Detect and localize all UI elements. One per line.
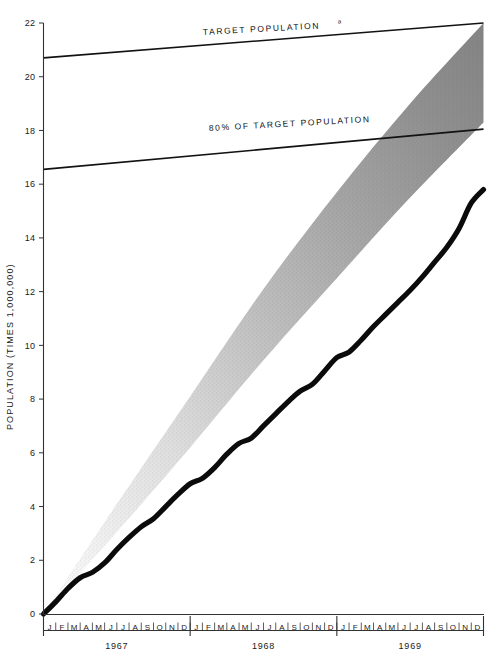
target-population-label: TARGET POPULATION bbox=[203, 20, 321, 37]
y-tick-label-22: 22 bbox=[25, 18, 36, 28]
month-label-N: N bbox=[316, 623, 322, 632]
y-axis-ticks bbox=[39, 23, 44, 614]
eighty-percent-label: 80% OF TARGET POPULATION bbox=[209, 114, 371, 133]
year-label-1969: 1969 bbox=[399, 641, 422, 651]
chart-canvas: 0246810121416182022 JFMAMJJASONDJFMAMJJA… bbox=[0, 0, 498, 658]
actual-population-curve bbox=[44, 190, 484, 614]
month-label-D: D bbox=[181, 623, 187, 632]
month-label-J: J bbox=[194, 623, 198, 632]
year-label-1967: 1967 bbox=[105, 641, 128, 651]
month-label-F: F bbox=[59, 623, 64, 632]
y-axis-tick-labels: 0246810121416182022 bbox=[25, 18, 36, 619]
month-label-A: A bbox=[84, 623, 90, 632]
month-label-M: M bbox=[71, 623, 78, 632]
month-label-A: A bbox=[132, 623, 138, 632]
month-label-J: J bbox=[268, 623, 272, 632]
month-label-A: A bbox=[377, 623, 383, 632]
y-tick-label-0: 0 bbox=[30, 609, 35, 619]
y-tick-label-8: 8 bbox=[30, 394, 35, 404]
month-label-N: N bbox=[169, 623, 175, 632]
month-label-A: A bbox=[230, 623, 236, 632]
y-tick-label-6: 6 bbox=[30, 448, 35, 458]
year-label-1968: 1968 bbox=[252, 641, 275, 651]
month-label-M: M bbox=[95, 623, 102, 632]
month-label-J: J bbox=[414, 623, 418, 632]
y-tick-label-18: 18 bbox=[25, 126, 36, 136]
y-tick-label-10: 10 bbox=[25, 341, 36, 351]
month-label-A: A bbox=[279, 623, 285, 632]
year-labels: 196719681969 bbox=[105, 641, 422, 651]
y-tick-label-20: 20 bbox=[25, 72, 36, 82]
month-label-M: M bbox=[242, 623, 249, 632]
month-label-J: J bbox=[255, 623, 259, 632]
month-label-J: J bbox=[341, 623, 345, 632]
month-label-D: D bbox=[474, 623, 480, 632]
month-label-S: S bbox=[291, 623, 296, 632]
annotation-target-population: TARGET POPULATION a bbox=[203, 18, 342, 37]
y-tick-label-2: 2 bbox=[30, 555, 35, 565]
month-label-M: M bbox=[217, 623, 224, 632]
month-label-J: J bbox=[121, 623, 125, 632]
month-label-O: O bbox=[303, 623, 309, 632]
month-label-J: J bbox=[109, 623, 113, 632]
month-label-M: M bbox=[388, 623, 395, 632]
month-label-O: O bbox=[450, 623, 456, 632]
month-label-D: D bbox=[328, 623, 334, 632]
y-tick-label-12: 12 bbox=[25, 287, 36, 297]
month-label-F: F bbox=[353, 623, 358, 632]
month-label-O: O bbox=[156, 623, 162, 632]
month-label-S: S bbox=[145, 623, 150, 632]
y-tick-label-16: 16 bbox=[25, 179, 36, 189]
y-axis-title: POPULATION (TIMES 1,000,000) bbox=[5, 263, 15, 430]
population-growth-chart: 0246810121416182022 JFMAMJJASONDJFMAMJJA… bbox=[0, 0, 498, 658]
month-label-F: F bbox=[206, 623, 211, 632]
y-tick-label-14: 14 bbox=[25, 233, 36, 243]
month-label-J: J bbox=[402, 623, 406, 632]
month-label-J: J bbox=[48, 623, 52, 632]
target-population-superscript: a bbox=[338, 18, 342, 24]
projection-band bbox=[0, 0, 498, 658]
month-label-N: N bbox=[462, 623, 468, 632]
y-tick-label-4: 4 bbox=[30, 502, 35, 512]
month-label-A: A bbox=[426, 623, 432, 632]
x-axis-month-strip: JFMAMJJASONDJFMAMJJASONDJFMAMJJASOND 196… bbox=[44, 616, 485, 651]
month-label-S: S bbox=[438, 623, 443, 632]
month-label-M: M bbox=[364, 623, 371, 632]
